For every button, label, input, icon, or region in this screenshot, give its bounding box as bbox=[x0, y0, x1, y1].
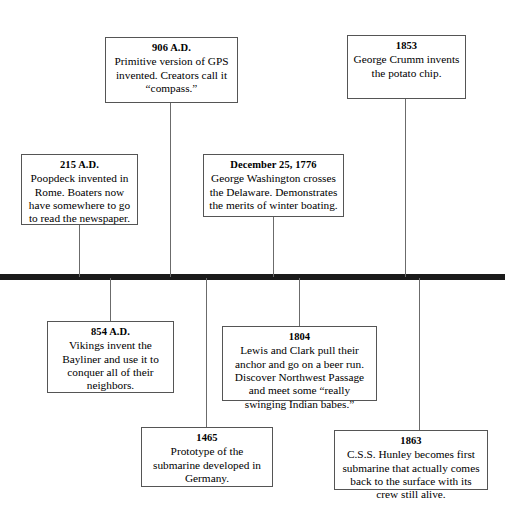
event-date-1776: December 25, 1776 bbox=[208, 159, 339, 171]
event-date-1853: 1853 bbox=[352, 40, 461, 52]
event-text-1863: C.S.S. Hunley becomes first submarine th… bbox=[339, 448, 483, 501]
event-date-906: 906 A.D. bbox=[110, 42, 233, 54]
event-box-215: 215 A.D. Poopdeck invented in Rome. Boat… bbox=[21, 154, 138, 225]
event-date-1863: 1863 bbox=[339, 435, 483, 447]
event-text-906: Primitive version of GPS invented. Creat… bbox=[110, 55, 233, 95]
connector-line-906 bbox=[170, 103, 171, 277]
connector-line-1776 bbox=[273, 217, 274, 277]
event-text-1776: George Washington crosses the Delaware. … bbox=[208, 172, 339, 212]
timeline-diagram: 906 A.D. Primitive version of GPS invent… bbox=[0, 0, 505, 516]
connector-line-1804 bbox=[299, 278, 300, 327]
event-box-1776: December 25, 1776 George Washington cros… bbox=[203, 154, 344, 217]
event-date-215: 215 A.D. bbox=[26, 159, 133, 171]
timeline-axis bbox=[0, 274, 505, 280]
event-box-854: 854 A.D. Vikings invent the Bayliner and… bbox=[47, 321, 174, 393]
connector-line-1863 bbox=[419, 278, 420, 431]
connector-line-215 bbox=[79, 225, 80, 277]
event-box-1804: 1804 Lewis and Clark pull their anchor a… bbox=[222, 326, 377, 401]
event-text-215: Poopdeck invented in Rome. Boaters now h… bbox=[26, 172, 133, 225]
event-box-1465: 1465 Prototype of the submarine develope… bbox=[141, 427, 273, 487]
event-box-1863: 1863 C.S.S. Hunley becomes first submari… bbox=[334, 430, 488, 490]
connector-line-854 bbox=[110, 278, 111, 322]
connector-line-1465 bbox=[206, 278, 207, 428]
event-text-854: Vikings invent the Bayliner and use it t… bbox=[52, 339, 169, 392]
event-date-1804: 1804 bbox=[227, 331, 372, 343]
event-date-1465: 1465 bbox=[146, 432, 268, 444]
event-date-854: 854 A.D. bbox=[52, 326, 169, 338]
event-box-906: 906 A.D. Primitive version of GPS invent… bbox=[105, 37, 238, 103]
event-text-1465: Prototype of the submarine developed in … bbox=[146, 445, 268, 485]
event-text-1804: Lewis and Clark pull their anchor and go… bbox=[227, 344, 372, 411]
event-text-1853: George Crumm invents the potato chip. bbox=[352, 53, 461, 80]
event-box-1853: 1853 George Crumm invents the potato chi… bbox=[347, 35, 466, 99]
connector-line-1853 bbox=[405, 99, 406, 277]
